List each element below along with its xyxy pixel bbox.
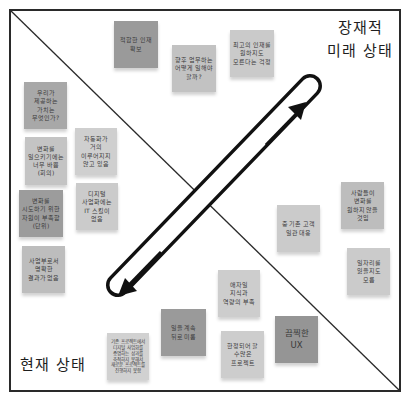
sticky-note[interactable]: 향후 업무하는 어떻게 일해야 할까?	[172, 45, 216, 92]
sticky-note[interactable]: 변화를 시도하기 위한 자원이 부족함 (단위)	[19, 190, 63, 237]
sticky-note[interactable]: 끔찍한 UX	[275, 316, 318, 363]
sticky-note[interactable]: 한정되어 할 수많은 프로젝트	[221, 331, 264, 378]
future-state-label-line1: 장재적	[318, 17, 402, 40]
sticky-note[interactable]: 기존 프로젝트에서 디지털 사업화를 증명하는 성과를 축적하지 못해서 새로운…	[107, 333, 149, 380]
sticky-note[interactable]: 중 기존 고객 일관 대응	[277, 205, 320, 252]
sticky-note[interactable]: 변화를 일으키기에는 너무 바쁨 (회의)	[25, 137, 67, 185]
sticky-note[interactable]: 사람들이 변화를 원하지 않을 것임	[341, 182, 384, 229]
future-state-label: 장재적 미래 상태	[318, 17, 402, 64]
sticky-note[interactable]: 사업부로서 명확한 결과가 없음	[22, 246, 65, 293]
sticky-note[interactable]: 디지털 사업화에는 IT 스킬이 없음	[76, 183, 118, 230]
sticky-note[interactable]: 일을 계속 뒤로 미룸	[161, 309, 206, 356]
sticky-note[interactable]: 최고의 인재를 원하지도 모른다는 걱정	[230, 30, 274, 77]
sticky-note[interactable]: 일자리를 잃을지도 모름	[347, 248, 390, 295]
current-state-label: 현재 상태	[20, 354, 86, 377]
future-state-label-line2: 미래 상태	[318, 40, 402, 63]
sticky-note[interactable]: 애자일 지식과 역량의 부족	[218, 270, 260, 317]
sticky-note[interactable]: 자동화가 거의 이루어지지 않고 있음	[75, 128, 117, 175]
transition-pill	[118, 86, 310, 285]
sticky-note[interactable]: 우리가 제공하는 가치는 무엇인가?	[24, 82, 67, 129]
sticky-note[interactable]: 적합한 인재 확보	[114, 21, 158, 68]
